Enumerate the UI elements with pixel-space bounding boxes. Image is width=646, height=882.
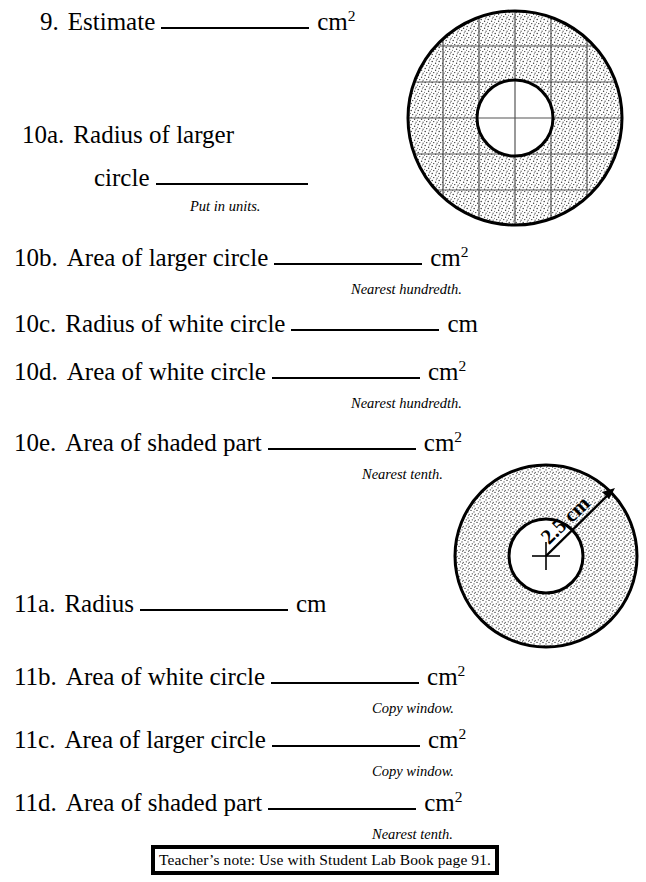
answer-blank-9[interactable] [161, 5, 309, 29]
answer-note-10e: Nearest tenth. [362, 466, 443, 483]
answer-blank-11c[interactable] [272, 723, 420, 747]
question-row-11d: 11d. Area of shaded part cm2 [14, 787, 463, 816]
answer-note-11b: Copy window. [372, 700, 454, 717]
question-text-10d: Area of white circle [67, 359, 266, 385]
question-row-11b: 11b. Area of white circle cm2 [14, 661, 465, 690]
answer-blank-10c[interactable] [291, 307, 439, 331]
answer-blank-10e[interactable] [268, 426, 416, 450]
question-text-11b: Area of white circle [66, 664, 265, 690]
question-number-10a: 10a. [22, 122, 64, 148]
question-text-10e: Area of shaded part [65, 430, 261, 456]
question-number-10d: 10d. [14, 359, 58, 385]
unit-label-11d: cm2 [424, 790, 462, 816]
question-number-11d: 11d. [14, 790, 57, 816]
question-number-11c: 11c. [14, 727, 55, 753]
unit-label-10e: cm2 [424, 430, 462, 456]
unit-label-9: cm2 [317, 9, 355, 35]
answer-note-11c: Copy window. [372, 763, 454, 780]
unit-label-10c: cm [447, 311, 478, 337]
question-row-10c: 10c. Radius of white circle cm [14, 308, 478, 337]
answer-blank-10d[interactable] [272, 355, 420, 379]
question-text-11c: Area of larger circle [64, 727, 266, 753]
unit-label-10b: cm2 [430, 245, 468, 271]
answer-blank-11a[interactable] [140, 587, 288, 611]
teacher-note-text: Teacher’s note: Use with Student Lab Boo… [154, 848, 496, 872]
answer-blank-11d[interactable] [268, 786, 416, 810]
labelled-annulus-diagram: 2.5 cm [452, 461, 644, 653]
teacher-note-box: Teacher’s note: Use with Student Lab Boo… [151, 845, 499, 875]
question-row-10e: 10e. Area of shaded part cm2 [14, 427, 462, 456]
question-number-10c: 10c. [14, 311, 56, 337]
question-number-9: 9. [40, 9, 59, 35]
answer-note-10b: Nearest hundredth. [351, 281, 462, 298]
question-number-10e: 10e. [14, 430, 56, 456]
question-row-11a: 11a. Radius cm [14, 588, 326, 617]
question-text-9: Estimate [68, 9, 155, 35]
question-row-10b: 10b. Area of larger circle cm2 [14, 242, 469, 271]
answer-blank-10a[interactable] [156, 161, 308, 185]
question-text-10c: Radius of white circle [65, 311, 285, 337]
question-text-10b: Area of larger circle [67, 245, 269, 271]
question-text-10a-line2: circle [94, 164, 150, 192]
unit-label-11a: cm [296, 591, 327, 617]
gridded-annulus-diagram [403, 4, 627, 232]
answer-blank-11b[interactable] [271, 660, 419, 684]
answer-note-11d: Nearest tenth. [372, 826, 453, 843]
question-text-11d: Area of shaded part [66, 790, 262, 816]
question-row-10a-line2: circle [94, 162, 314, 192]
unit-label-11b: cm2 [427, 664, 465, 690]
worksheet-page: 2.5 cm 9. Estimate cm2 10a. Radius of la… [0, 0, 646, 882]
answer-blank-10b[interactable] [274, 241, 422, 265]
answer-note-10a: Put in units. [190, 198, 261, 215]
unit-label-11c: cm2 [428, 727, 466, 753]
question-row-9: 9. Estimate cm2 [40, 6, 356, 35]
question-row-11c: 11c. Area of larger circle cm2 [14, 724, 466, 753]
question-number-10b: 10b. [14, 245, 58, 271]
unit-label-10d: cm2 [428, 359, 466, 385]
question-text-11a: Radius [64, 591, 133, 617]
question-text-10a: Radius of larger [73, 122, 234, 148]
question-row-10d: 10d. Area of white circle cm2 [14, 356, 466, 385]
question-row-10a: 10a. Radius of larger [22, 122, 234, 148]
question-number-11b: 11b. [14, 664, 57, 690]
answer-note-10d: Nearest hundredth. [351, 395, 462, 412]
question-number-11a: 11a. [14, 591, 55, 617]
